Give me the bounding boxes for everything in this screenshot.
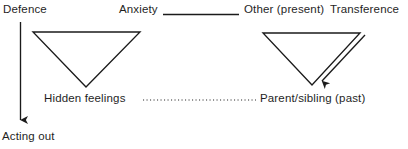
label-other-present: Other (present) — [244, 3, 324, 16]
diagram-graphics — [0, 0, 408, 149]
diagram-canvas: Defence Anxiety Other (present) Transfer… — [0, 0, 408, 149]
triangle-of-conflict-shape — [33, 32, 140, 87]
label-defence: Defence — [3, 3, 47, 16]
label-hidden-feelings: Hidden feelings — [44, 92, 126, 105]
label-transference: Transference — [330, 3, 399, 16]
label-anxiety: Anxiety — [119, 3, 158, 16]
triangle-of-person-shape — [263, 33, 360, 85]
label-parent-sibling-past: Parent/sibling (past) — [260, 92, 365, 105]
label-acting-out: Acting out — [2, 130, 55, 143]
transference-arrow-line — [322, 35, 365, 81]
